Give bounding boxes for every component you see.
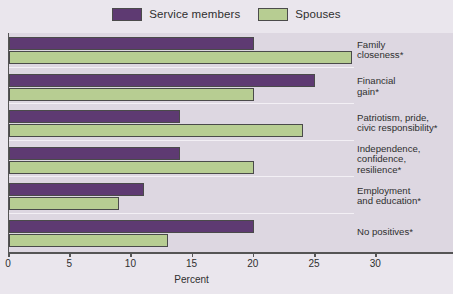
service-members-swatch xyxy=(112,8,142,21)
bar-spouses xyxy=(9,234,168,247)
x-tick-label: 10 xyxy=(125,258,136,269)
category-label-line: civic responsibility* xyxy=(357,123,453,134)
x-tick-label: 5 xyxy=(66,258,72,269)
chart-figure: Service members Spouses Familycloseness*… xyxy=(0,0,453,294)
group-separator xyxy=(9,103,354,104)
spouses-swatch xyxy=(258,8,288,21)
bar-service-members xyxy=(9,220,254,233)
x-axis-title: Percent xyxy=(8,274,375,285)
category-label-column: Familycloseness*Financialgain*Patriotism… xyxy=(357,33,453,252)
bar-service-members xyxy=(9,147,180,160)
x-tick xyxy=(8,252,10,257)
x-tick-label: 20 xyxy=(247,258,258,269)
x-tick-label: 30 xyxy=(370,258,381,269)
x-tick xyxy=(253,252,255,257)
bar-spouses xyxy=(9,88,254,101)
group-separator xyxy=(9,213,354,214)
category-label: Patriotism, pride,civic responsibility* xyxy=(357,113,453,134)
x-tick xyxy=(375,252,377,257)
legend-item-service-members: Service members xyxy=(112,8,240,21)
x-tick xyxy=(130,252,132,257)
plot-area xyxy=(8,33,354,252)
bar-spouses xyxy=(9,124,303,137)
category-label: No positives* xyxy=(357,227,453,238)
category-label-line: No positives* xyxy=(357,227,453,238)
category-label: Independence,confidence,resilience* xyxy=(357,144,453,176)
category-label: Employmentand education* xyxy=(357,186,453,207)
bar-service-members xyxy=(9,37,254,50)
x-tick-label: 0 xyxy=(5,258,11,269)
x-tick xyxy=(69,252,71,257)
legend-label-spouses: Spouses xyxy=(295,8,340,20)
group-separator xyxy=(9,67,354,68)
legend-item-spouses: Spouses xyxy=(258,8,340,21)
x-axis-line xyxy=(8,252,453,254)
category-label-line: resilience* xyxy=(357,165,453,176)
x-tick xyxy=(192,252,194,257)
bar-spouses xyxy=(9,51,352,64)
bar-spouses xyxy=(9,197,119,210)
x-tick xyxy=(314,252,316,257)
category-label-line: gain* xyxy=(357,87,453,98)
category-label: Financialgain* xyxy=(357,76,453,97)
legend-label-service-members: Service members xyxy=(149,8,240,20)
group-separator xyxy=(9,140,354,141)
bar-service-members xyxy=(9,183,144,196)
category-label-line: closeness* xyxy=(357,50,453,61)
x-tick-label: 25 xyxy=(308,258,319,269)
bar-spouses xyxy=(9,161,254,174)
x-tick-label: 15 xyxy=(186,258,197,269)
chart-legend: Service members Spouses xyxy=(0,2,453,26)
bar-service-members xyxy=(9,74,315,87)
category-label-line: and education* xyxy=(357,196,453,207)
category-label: Familycloseness* xyxy=(357,40,453,61)
bar-service-members xyxy=(9,110,180,123)
group-separator xyxy=(9,176,354,177)
